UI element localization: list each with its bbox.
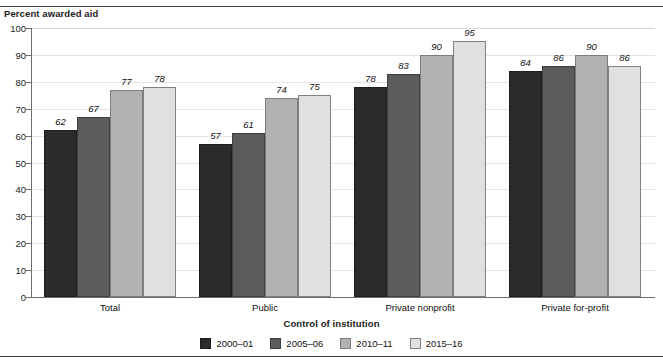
bar-value-label: 83 (398, 60, 409, 71)
category-label: Private for-profit (541, 302, 609, 313)
bar (265, 98, 298, 297)
bar (420, 55, 453, 297)
bar (453, 41, 486, 297)
y-axis-tick-label: 50 (2, 157, 26, 168)
bar (575, 55, 608, 297)
y-axis-tick-label: 90 (2, 49, 26, 60)
legend-label: 2010–11 (356, 338, 392, 349)
bar (509, 71, 542, 297)
header-crop-area (0, 0, 663, 5)
legend-item: 2015–16 (410, 338, 463, 349)
y-axis-tick-label: 10 (2, 265, 26, 276)
bar-value-label: 62 (55, 116, 66, 127)
bar-value-label: 95 (464, 27, 475, 38)
top-divider-rule (0, 6, 663, 7)
bar-value-label: 90 (586, 41, 597, 52)
chart-legend: 2000–012005–062010–112015–16 (0, 338, 663, 349)
legend-item: 2000–01 (200, 338, 253, 349)
legend-label: 2005–06 (286, 338, 323, 349)
bar (199, 144, 232, 297)
bar-value-label: 86 (553, 52, 564, 63)
legend-item: 2010–11 (340, 338, 392, 349)
bar-value-label: 84 (520, 57, 531, 68)
legend-swatch-icon (200, 338, 211, 349)
x-axis-title: Control of institution (0, 318, 663, 329)
y-axis-tick-label: 0 (2, 292, 26, 303)
plot-area (31, 28, 655, 297)
bar (44, 130, 77, 297)
legend-swatch-icon (270, 338, 281, 349)
y-axis-tick-label: 60 (2, 130, 26, 141)
bar (298, 95, 331, 297)
bar (608, 66, 641, 297)
y-axis-tick-label: 100 (2, 23, 26, 34)
legend-label: 2015–16 (426, 338, 463, 349)
bar (232, 133, 265, 297)
legend-swatch-icon (340, 338, 351, 349)
legend-label: 2000–01 (216, 338, 253, 349)
y-axis-tick-label: 40 (2, 184, 26, 195)
bar (542, 66, 575, 297)
bar-value-label: 77 (121, 76, 132, 87)
bar-value-label: 67 (88, 103, 99, 114)
category-label: Public (252, 302, 278, 313)
y-axis-tick-label: 30 (2, 211, 26, 222)
bar (143, 87, 176, 297)
x-axis-line (31, 297, 655, 298)
category-label: Total (100, 302, 120, 313)
bar (387, 74, 420, 297)
bar (110, 90, 143, 297)
bar-value-label: 74 (276, 84, 287, 95)
category-label: Private nonprofit (385, 302, 454, 313)
legend-item: 2005–06 (270, 338, 323, 349)
bar-value-label: 86 (619, 52, 630, 63)
bar (77, 117, 110, 297)
bottom-divider-rule (0, 356, 663, 357)
chart-figure: Percent awarded aid 10090807060504030201… (0, 0, 663, 362)
bar-value-label: 61 (243, 119, 254, 130)
bar-value-label: 78 (154, 73, 165, 84)
bar (354, 87, 387, 297)
bar-value-label: 90 (431, 41, 442, 52)
bar-value-label: 78 (365, 73, 376, 84)
bar-value-label: 57 (210, 130, 221, 141)
y-axis-tick-label: 80 (2, 76, 26, 87)
legend-swatch-icon (410, 338, 421, 349)
y-axis-tick-label: 20 (2, 238, 26, 249)
y-axis-tick-label: 70 (2, 103, 26, 114)
y-axis-title: Percent awarded aid (4, 8, 98, 19)
bar-value-label: 75 (309, 81, 320, 92)
